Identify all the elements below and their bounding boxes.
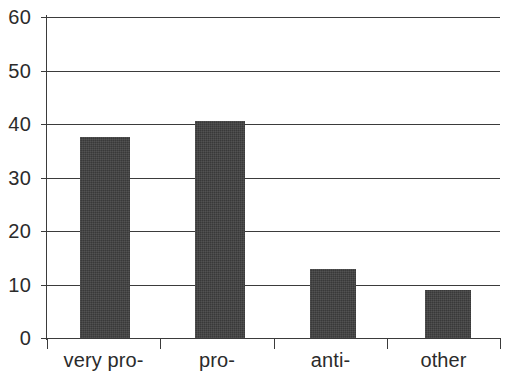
y-axis-label-0: 0 xyxy=(0,328,31,348)
bars-layer xyxy=(47,17,500,338)
y-tick-50 xyxy=(41,71,48,72)
y-axis-label-20: 20 xyxy=(0,221,31,241)
x-tick-2 xyxy=(274,338,275,349)
y-axis-label-60: 60 xyxy=(0,7,31,27)
x-axis-label-pro: pro- xyxy=(160,350,274,370)
y-axis-label-40: 40 xyxy=(0,114,31,134)
x-axis-label-very-pro: very pro- xyxy=(47,350,160,370)
bar-chart: 60 50 40 30 20 10 0 very pro- pro- anti-… xyxy=(0,0,505,383)
y-tick-10 xyxy=(41,285,48,286)
x-tick-3 xyxy=(387,338,388,349)
y-axis-label-10: 10 xyxy=(0,275,31,295)
y-tick-60 xyxy=(41,17,48,18)
bar-anti xyxy=(310,269,356,339)
bar-other xyxy=(425,290,471,338)
y-tick-30 xyxy=(41,178,48,179)
x-axis-label-anti: anti- xyxy=(274,350,387,370)
x-axis-label-other: other xyxy=(387,350,500,370)
x-tick-1 xyxy=(160,338,161,349)
y-axis-label-50: 50 xyxy=(0,61,31,81)
x-tick-end xyxy=(500,338,501,349)
y-axis-label-30: 30 xyxy=(0,168,31,188)
y-tick-20 xyxy=(41,231,48,232)
y-tick-40 xyxy=(41,124,48,125)
bar-very-pro xyxy=(80,137,130,338)
x-tick-start xyxy=(47,338,48,349)
bar-pro xyxy=(195,121,245,338)
